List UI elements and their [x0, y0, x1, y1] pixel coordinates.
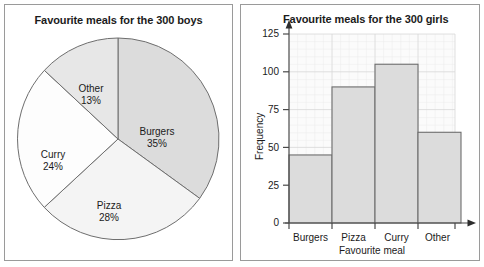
bar-chart-plot: 125 100 75 50 25 0 Burgers Pizza Curry O… [241, 5, 479, 260]
pie-label-pizza: Pizza 28% [83, 200, 135, 224]
pie-label-curry: Curry 24% [27, 149, 79, 173]
ytick-label-0: 0 [245, 217, 279, 228]
xtick-label-other: Other [413, 232, 462, 243]
figure-root: Favourite meals for the 300 boys Burgers… [0, 0, 484, 267]
pie-label-curry-name: Curry [27, 149, 79, 161]
pie-chart-panel: Favourite meals for the 300 boys Burgers… [4, 4, 233, 261]
xtick-label-pizza: Pizza [329, 232, 378, 243]
y-axis-ticks [283, 34, 289, 223]
pie-label-burgers: Burgers 35% [126, 126, 188, 150]
ytick-label-125: 125 [245, 28, 279, 39]
pie-label-other-value: 13% [65, 95, 117, 107]
pie-label-pizza-name: Pizza [83, 200, 135, 212]
ytick-label-25: 25 [245, 180, 279, 191]
pie-label-other: Other 13% [65, 83, 117, 107]
bar-pizza [332, 87, 375, 223]
y-axis-title: Frequency [254, 113, 265, 160]
pie-chart-plot: Burgers 35% Pizza 28% Curry 24% Other 13… [9, 31, 230, 253]
pie-label-other-name: Other [65, 83, 117, 95]
bar-curry [375, 64, 418, 223]
pie-label-burgers-name: Burgers [126, 126, 188, 138]
pie-label-burgers-value: 35% [126, 138, 188, 150]
bar-chart-panel: Favourite meals for the 300 girls [240, 4, 480, 261]
pie-label-curry-value: 24% [27, 161, 79, 173]
bar-other [418, 132, 461, 223]
pie-label-pizza-value: 28% [83, 212, 135, 224]
ytick-label-100: 100 [245, 66, 279, 77]
x-axis-title: Favourite meal [289, 245, 455, 256]
pie-chart-title: Favourite meals for the 300 boys [5, 14, 232, 26]
bar-burgers [289, 155, 332, 223]
x-axis-ticks [289, 223, 455, 229]
